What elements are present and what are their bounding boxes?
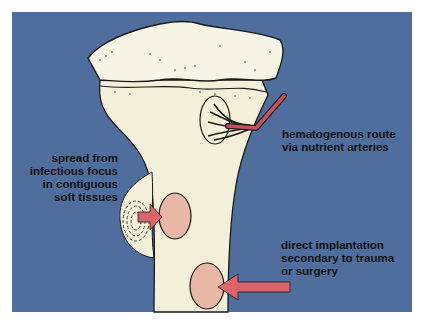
label-hematogenous-route: hematogenous route via nutrient arteries [282,128,396,154]
label-contiguous-spread: spread from infectious focus in contiguo… [22,152,118,204]
bone-epiphysis [88,21,283,81]
label-direct-implantation: direct implantation secondary to trauma … [281,239,394,278]
contiguous-lesion [159,193,191,239]
